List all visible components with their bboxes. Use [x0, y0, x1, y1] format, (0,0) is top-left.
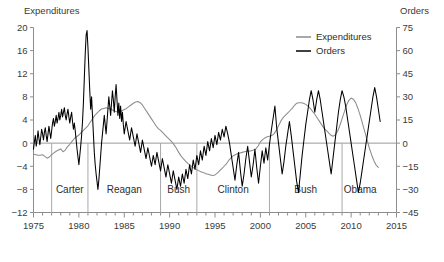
right-axis-title: Orders — [400, 5, 429, 16]
svg-text:2010: 2010 — [341, 220, 362, 231]
svg-text:−12: −12 — [11, 207, 27, 218]
svg-text:75: 75 — [403, 22, 414, 33]
svg-text:Carter: Carter — [56, 184, 84, 195]
svg-text:−4: −4 — [17, 161, 28, 172]
svg-text:Bush: Bush — [167, 184, 190, 195]
svg-text:12: 12 — [17, 68, 28, 79]
svg-text:4: 4 — [22, 114, 27, 125]
svg-text:−45: −45 — [403, 207, 419, 218]
svg-text:Obama: Obama — [344, 184, 377, 195]
svg-text:2000: 2000 — [250, 220, 271, 231]
svg-text:2015: 2015 — [386, 220, 407, 231]
svg-text:−15: −15 — [403, 161, 419, 172]
svg-text:30: 30 — [403, 91, 414, 102]
svg-text:2005: 2005 — [295, 220, 316, 231]
svg-text:45: 45 — [403, 68, 414, 79]
svg-text:60: 60 — [403, 45, 414, 56]
svg-text:1990: 1990 — [159, 220, 180, 231]
legend-label-expenditures: Expenditures — [316, 31, 372, 42]
svg-text:20: 20 — [17, 22, 28, 33]
svg-text:8: 8 — [22, 91, 27, 102]
svg-text:−8: −8 — [17, 184, 28, 195]
svg-text:1985: 1985 — [114, 220, 135, 231]
svg-text:15: 15 — [403, 114, 414, 125]
svg-text:−30: −30 — [403, 184, 419, 195]
svg-text:1980: 1980 — [68, 220, 89, 231]
left-axis-title: Expenditures — [24, 5, 80, 16]
svg-text:1995: 1995 — [204, 220, 225, 231]
expenditures-orders-chart: 201612840−4−8−12 75604530150−15−30−45 19… — [0, 0, 444, 262]
chart-root: 201612840−4−8−12 75604530150−15−30−45 19… — [0, 0, 444, 262]
svg-text:0: 0 — [403, 138, 408, 149]
svg-text:1975: 1975 — [23, 220, 44, 231]
legend-label-orders: Orders — [316, 45, 345, 56]
svg-text:16: 16 — [17, 45, 28, 56]
svg-text:0: 0 — [22, 138, 27, 149]
svg-text:Reagan: Reagan — [107, 184, 142, 195]
svg-text:Clinton: Clinton — [218, 184, 249, 195]
